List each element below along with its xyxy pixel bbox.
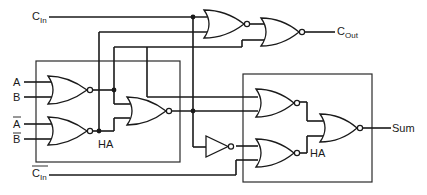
nor-gate-ha-left-out xyxy=(127,97,172,125)
label-a-bar: A xyxy=(13,118,21,130)
full-adder-circuit-diagram: CIn A B A B CIn HA HA COut Sum xyxy=(0,0,427,195)
junction-dot xyxy=(191,15,196,20)
label-b-bar: B xyxy=(13,133,20,145)
label-ha-left: HA xyxy=(98,138,114,150)
junction-dot xyxy=(97,129,102,134)
nor-gate-right-bottom xyxy=(256,139,300,167)
nor-gate-ab xyxy=(48,76,93,104)
nor-gate-carry-out xyxy=(261,18,305,46)
nor-gate-right-top xyxy=(256,89,300,117)
label-a: A xyxy=(13,76,21,88)
label-ha-right: HA xyxy=(310,147,326,159)
label-c-out: COut xyxy=(337,25,359,40)
nor-gate-abar-bbar xyxy=(48,117,93,145)
inverter-gate xyxy=(206,136,234,157)
label-b: B xyxy=(13,91,20,103)
junction-dot xyxy=(191,109,196,114)
label-sum: Sum xyxy=(392,122,415,134)
label-c-in-bar: CIn xyxy=(32,167,47,182)
nor-gate-carry-1 xyxy=(204,10,250,38)
junction-dot xyxy=(112,88,117,93)
nor-gate-sum xyxy=(320,114,363,142)
label-c-in: CIn xyxy=(32,10,47,25)
